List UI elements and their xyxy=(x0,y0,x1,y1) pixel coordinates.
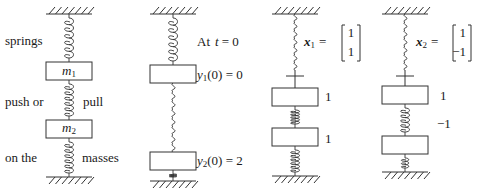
p4-bottom-support-hatch xyxy=(392,172,398,179)
p1-bottom-support-hatch xyxy=(75,177,81,184)
p3-bottom-support-hatch xyxy=(295,176,301,183)
p3-top-support-hatch xyxy=(295,7,301,14)
p3-mass-1 xyxy=(272,88,318,106)
p4-mass-1 xyxy=(382,86,428,104)
p4-spring-top xyxy=(404,14,407,70)
x1-equals: = xyxy=(319,34,326,49)
p3-spring-bottom xyxy=(291,146,300,176)
heading-at: At xyxy=(197,34,210,49)
p2-bottom-support-hatch xyxy=(173,181,179,188)
mode2-mass2-value: −1 xyxy=(437,116,451,131)
p1-top-support-hatch xyxy=(56,7,62,14)
p2-spring-top xyxy=(169,14,178,65)
p4-top-support-hatch xyxy=(424,7,430,14)
p4-top-support-hatch xyxy=(418,7,424,14)
p4-mass-2 xyxy=(382,136,428,154)
p4-bottom-support-hatch xyxy=(398,172,404,179)
mass-2-var: m xyxy=(62,120,71,135)
p1-bottom-support-hatch xyxy=(49,177,55,184)
x1-sub: 1 xyxy=(311,40,316,50)
y2-initial: y2(0) = 2 xyxy=(195,153,243,169)
x1-label: x1= xyxy=(303,34,326,50)
p3-top-support-hatch xyxy=(301,7,307,14)
p2-bottom-support-hatch xyxy=(166,181,172,188)
label-on-the: on the xyxy=(5,150,37,165)
label-springs: springs xyxy=(5,33,43,48)
p2-bottom-support-hatch xyxy=(160,181,166,188)
p2-bottom-support-hatch xyxy=(179,181,185,188)
p3-top-support-hatch xyxy=(282,7,288,14)
p3-mass-2 xyxy=(272,128,318,146)
mode1-mass1-value: 1 xyxy=(325,89,332,104)
p3-bottom-support-hatch xyxy=(308,176,314,183)
p1-top-support-hatch xyxy=(88,7,94,14)
p2-top-support-hatch xyxy=(179,7,185,14)
p2-top-support-hatch xyxy=(153,7,159,14)
p3-bottom-support-hatch xyxy=(275,176,281,183)
p2-bottom-support-hatch xyxy=(153,181,159,188)
p2-top-support-hatch xyxy=(186,7,192,14)
p1-spring-middle xyxy=(65,80,74,120)
p3-bottom-support-hatch xyxy=(288,176,294,183)
y1-rest: (0) = 0 xyxy=(207,67,243,82)
p2-top-support-hatch xyxy=(192,7,198,14)
p1-bottom-support-hatch xyxy=(62,177,68,184)
mass-1-sub: 1 xyxy=(71,69,76,79)
p3-top-support-hatch xyxy=(288,7,294,14)
p4-top-support-hatch xyxy=(385,7,391,14)
heading-t: t xyxy=(215,34,219,49)
p3-spring-middle xyxy=(291,106,300,128)
p4-spring-bottom xyxy=(401,154,408,172)
p1-top-support-hatch xyxy=(49,7,55,14)
p1-top-support-hatch xyxy=(62,7,68,14)
mass-2-sub: 2 xyxy=(71,126,76,136)
label-masses: masses xyxy=(82,150,119,165)
p4-bottom-support-hatch xyxy=(411,172,417,179)
p2-top-support-hatch xyxy=(160,7,166,14)
label-push-or: push or xyxy=(5,94,44,109)
x2-entry-1: 1 xyxy=(460,25,467,40)
p1-top-support-hatch xyxy=(82,7,88,14)
p2-bottom-support-hatch xyxy=(186,181,192,188)
p3-top-support-hatch xyxy=(275,7,281,14)
p3-spring-top xyxy=(294,14,297,70)
p3-bottom-support-hatch xyxy=(314,176,320,183)
p4-spring-middle xyxy=(401,104,410,136)
p3-bottom-support-hatch xyxy=(282,176,288,183)
x1-right-bracket xyxy=(357,25,360,61)
x1-left-bracket xyxy=(342,25,345,61)
p2-bottom-support-hatch xyxy=(192,181,198,188)
x1-entry-1: 1 xyxy=(348,25,355,40)
x2-equals: = xyxy=(431,34,438,49)
p4-bottom-support-hatch xyxy=(385,172,391,179)
p4-top-support-hatch xyxy=(392,7,398,14)
x2-right-bracket xyxy=(468,25,471,61)
p1-spring-bottom xyxy=(65,138,74,177)
label-pull: pull xyxy=(83,94,104,109)
p2-spring-bottom xyxy=(169,170,176,181)
y2-rest: (0) = 2 xyxy=(207,153,243,168)
p1-top-support-hatch xyxy=(75,7,81,14)
mode2-mass1-value: 1 xyxy=(440,88,447,103)
p3-bottom-support-hatch xyxy=(301,176,307,183)
spring-mass-diagram: springs push or pull on the masses m1 m2… xyxy=(0,0,498,195)
p3-top-support-hatch xyxy=(308,7,314,14)
p4-top-support-hatch xyxy=(398,7,404,14)
heading-at-t0: Att= 0 xyxy=(197,34,239,49)
mode1-mass2-value: 1 xyxy=(325,131,332,146)
p1-bottom-support-hatch xyxy=(88,177,94,184)
p1-top-support-hatch xyxy=(69,7,75,14)
p4-bottom-support-hatch xyxy=(424,172,430,179)
x2-entry-2: −1 xyxy=(452,44,466,59)
heading-eq: = 0 xyxy=(222,34,239,49)
p4-top-support-hatch xyxy=(411,7,417,14)
y1-initial: y1(0) = 0 xyxy=(195,67,243,83)
p2-top-support-hatch xyxy=(173,7,179,14)
p4-top-support-hatch xyxy=(405,7,411,14)
x2-label: x2= xyxy=(415,34,438,50)
p2-mass-2 xyxy=(150,152,196,170)
p4-bottom-support-hatch xyxy=(405,172,411,179)
p1-bottom-support-hatch xyxy=(82,177,88,184)
p2-top-support-hatch xyxy=(166,7,172,14)
p4-bottom-support-hatch xyxy=(418,172,424,179)
